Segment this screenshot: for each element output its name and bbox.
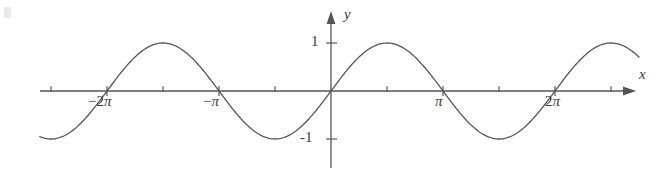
pi-glyph: π [104,93,112,109]
y-tick-label-positive-one: 1 [311,33,319,50]
x-axis-arrowhead [623,87,636,96]
x-axis-label: x [639,66,646,83]
x-tick-label-neg-pi: −π [203,93,219,110]
y-axis-arrowhead [327,11,336,24]
x-tick-label-neg-2pi: −2π [88,93,111,110]
y-axis-label: y [344,6,351,23]
sine-curve-figure: x y −2π −π π 2π 1 -1 [0,0,668,170]
x-tick-label-2pi: 2π [545,93,560,110]
y-tick-label-negative-one: -1 [300,129,313,146]
x-tick-label-pi: π [435,93,443,110]
plot-canvas [0,0,668,170]
pi-glyph: π [553,93,561,109]
pi-glyph: π [211,93,219,109]
pi-glyph: π [435,93,443,109]
